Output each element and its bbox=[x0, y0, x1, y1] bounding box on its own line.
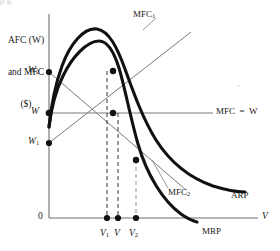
mrp-label: MRP bbox=[202, 226, 221, 236]
x-tick-v1-subscript: 1 bbox=[106, 231, 109, 238]
scan-smudge-artifact: ʼ bbox=[237, 84, 240, 93]
y-axis-title-line2: and MFC bbox=[4, 67, 48, 78]
point-mfc2-mrp-intersection bbox=[133, 157, 139, 163]
mfc1-label: MFC1 bbox=[133, 9, 155, 20]
y-tick-label-w2: W2 bbox=[28, 65, 39, 76]
x-tick-label-v: V bbox=[114, 228, 120, 239]
y-axis-title: AFC (W) and MFC ($) bbox=[4, 14, 48, 131]
x-tick-v-base: V bbox=[114, 228, 120, 238]
leader-lines bbox=[143, 18, 168, 188]
point-v2-axis bbox=[133, 215, 139, 221]
point-v1-axis bbox=[104, 215, 110, 221]
mfc1-label-subscript: 1 bbox=[152, 12, 155, 19]
product-curves bbox=[49, 29, 245, 222]
point-mfc1-mrp-intersection bbox=[110, 68, 116, 74]
point-w1-axis bbox=[46, 140, 52, 146]
point-v-axis bbox=[115, 215, 121, 221]
y-tick-w2-subscript: 2 bbox=[36, 68, 39, 75]
x-tick-label-v2: V2 bbox=[129, 228, 138, 239]
x-axis-label: V bbox=[262, 211, 268, 222]
mfc2-label-base: MFC bbox=[168, 187, 187, 197]
y-tick-label-w: W bbox=[31, 106, 39, 117]
mfc-equals-w-label: MFC = W bbox=[216, 106, 257, 116]
point-mfc-w-mrp-intersection bbox=[110, 110, 116, 116]
x-tick-v2-subscript: 2 bbox=[135, 231, 138, 238]
y-tick-w1-base: W bbox=[28, 136, 36, 146]
mfc2-label-subscript: 2 bbox=[187, 190, 190, 197]
x-tick-label-v1: V1 bbox=[100, 228, 109, 239]
figure-monopsony-factor-market: p g bbox=[0, 0, 280, 251]
y-tick-w2-base: W bbox=[28, 65, 36, 75]
origin-label: 0 bbox=[38, 211, 43, 222]
arp-label: ARP bbox=[231, 190, 249, 200]
mfc2-label: MFC2 bbox=[168, 187, 190, 198]
y-axis-title-line3: ($) bbox=[4, 99, 48, 110]
y-axis-title-line1: AFC (W) bbox=[4, 35, 48, 46]
y-tick-w1-subscript: 1 bbox=[36, 139, 39, 146]
mfc1-label-base: MFC bbox=[133, 9, 152, 19]
y-tick-w-base: W bbox=[31, 106, 39, 116]
y-tick-label-w1: W1 bbox=[28, 136, 39, 147]
